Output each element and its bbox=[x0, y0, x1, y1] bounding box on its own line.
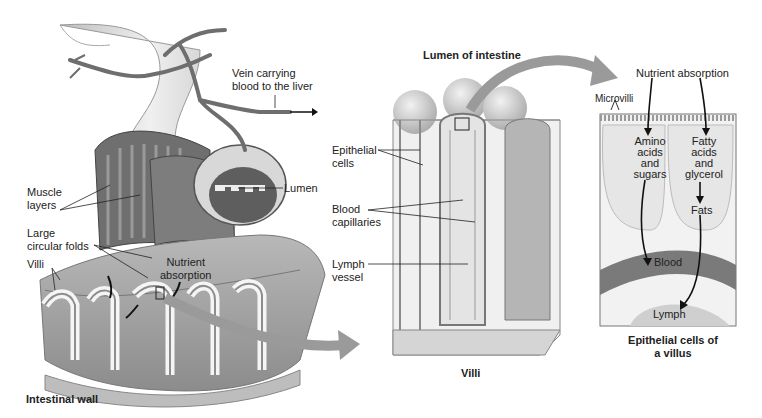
epithelial-illustration bbox=[600, 78, 736, 326]
fatty-line4: glycerol bbox=[680, 169, 728, 180]
muscle-label-line2: layers bbox=[27, 199, 62, 212]
intestinal-wall-title: Intestinal wall bbox=[26, 393, 98, 406]
blood-capillaries-label: Blood capillaries bbox=[332, 203, 381, 229]
nutrient-absorption-label-2: Nutrient absorption bbox=[636, 67, 729, 80]
digestion-diagram: Vein carrying blood to the liver Lumen M… bbox=[0, 0, 762, 418]
epithelial-line1: Epithelial bbox=[332, 144, 377, 157]
epithelial-line2: cells bbox=[332, 157, 377, 170]
folds-label-line2: circular folds bbox=[27, 240, 89, 253]
vein-label: Vein carrying blood to the liver bbox=[232, 67, 313, 93]
lymph-vessel-line1: Lymph bbox=[332, 258, 365, 271]
fatty-acids-label: Fatty acids and glycerol bbox=[680, 136, 728, 180]
nutrient-line2: absorption bbox=[160, 269, 211, 282]
muscle-layers-label: Muscle layers bbox=[27, 186, 62, 212]
amino-acids-label: Amino acids and sugars bbox=[628, 136, 672, 180]
nutrient-line1: Nutrient bbox=[160, 256, 211, 269]
villi-illustration bbox=[393, 78, 560, 355]
circular-folds-label: Large circular folds bbox=[27, 227, 89, 253]
microvilli-label: Microvilli bbox=[595, 92, 633, 105]
villi-title: Villi bbox=[461, 367, 480, 380]
lymph-vessel-line2: vessel bbox=[332, 271, 365, 284]
lumen-label: Lumen bbox=[284, 182, 318, 195]
lymph-label: Lymph bbox=[653, 308, 686, 321]
lumen-of-intestine-title: Lumen of intestine bbox=[423, 49, 521, 62]
fats-label: Fats bbox=[691, 204, 712, 217]
muscle-label-line1: Muscle bbox=[27, 186, 62, 199]
epithelial-cells-label: Epithelial cells bbox=[332, 144, 377, 170]
amino-line4: sugars bbox=[628, 169, 672, 180]
villi-label: Villi bbox=[27, 258, 44, 271]
vein-label-line1: Vein carrying bbox=[232, 67, 313, 80]
blood-label: Blood bbox=[654, 256, 682, 269]
nutrient-absorption-label: Nutrient absorption bbox=[160, 256, 211, 282]
epithelial-cells-title: Epithelial cells of a villus bbox=[618, 334, 728, 360]
lymph-vessel-label: Lymph vessel bbox=[332, 258, 365, 284]
epithelial-title-line1: Epithelial cells of bbox=[618, 334, 728, 347]
capillaries-line1: Blood bbox=[332, 203, 381, 216]
folds-label-line1: Large bbox=[27, 227, 89, 240]
capillaries-line2: capillaries bbox=[332, 216, 381, 229]
epithelial-title-line2: a villus bbox=[618, 347, 728, 360]
vein-label-line2: blood to the liver bbox=[232, 80, 313, 93]
